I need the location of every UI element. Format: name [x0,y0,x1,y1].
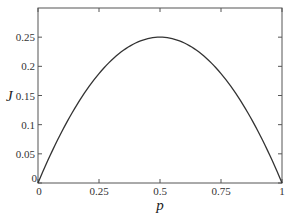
x-tick-label: 0.5 [153,185,167,197]
y-tick-label: 0.1 [21,119,35,131]
y-tick-label: 0.25 [16,31,36,43]
y-axis-label: J [6,88,14,104]
y-tick-label: 0.15 [16,90,36,102]
plot-frame [38,8,282,183]
y-tick-label: 0.2 [21,60,35,72]
x-tick-label: 0.75 [211,185,231,197]
x-tick-label: 1 [279,185,285,197]
x-axis-label: p [155,197,164,213]
chart: 00.250.50.751 00.050.10.150.20.25 p J [0,0,287,217]
y-tick-label: 0 [32,172,38,184]
y-tick-label: 0.05 [16,148,36,160]
x-axis-ticks: 00.250.50.751 [36,8,285,197]
data-curve [38,37,282,183]
y-axis-ticks: 00.050.10.150.20.25 [16,31,282,184]
x-tick-label: 0.25 [89,185,109,197]
x-tick-label: 0 [36,185,42,197]
